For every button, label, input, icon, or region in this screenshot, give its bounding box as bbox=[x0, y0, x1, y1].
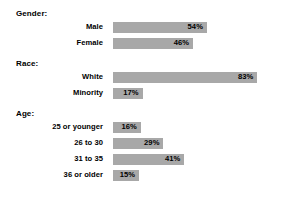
bar-row: Female46% bbox=[0, 37, 299, 49]
bar-category-label: 36 or older bbox=[0, 169, 103, 181]
bar-category-label: Minority bbox=[0, 87, 103, 99]
bar-value-label: 16% bbox=[115, 121, 137, 132]
bar-row: Male54% bbox=[0, 21, 299, 33]
bar-category-label: Male bbox=[0, 21, 103, 33]
bar-row: 31 to 3541% bbox=[0, 153, 299, 165]
bar-category-label: 31 to 35 bbox=[0, 153, 103, 165]
bar-row: White83% bbox=[0, 71, 299, 83]
bar-value-label: 41% bbox=[158, 153, 180, 164]
group-header: Gender: bbox=[16, 9, 47, 19]
bar-row: 26 to 3029% bbox=[0, 137, 299, 149]
bar-value-label: 54% bbox=[181, 21, 203, 32]
bar-row: 25 or younger16% bbox=[0, 121, 299, 133]
bar-value-label: 29% bbox=[137, 137, 159, 148]
bar-value-label: 46% bbox=[167, 37, 189, 48]
group-header: Age: bbox=[16, 109, 34, 119]
bar-category-label: 25 or younger bbox=[0, 121, 103, 133]
bar-value-label: 83% bbox=[231, 71, 253, 82]
bar-row: 36 or older15% bbox=[0, 169, 299, 181]
bar-category-label: White bbox=[0, 71, 103, 83]
bar-value-label: 17% bbox=[117, 87, 139, 98]
group-header: Race: bbox=[16, 59, 38, 69]
bar-category-label: Female bbox=[0, 37, 103, 49]
bar-value-label: 15% bbox=[113, 169, 135, 180]
bar-row: Minority17% bbox=[0, 87, 299, 99]
bar-chart: Gender:Male54%Female46%Race:White83%Mino… bbox=[0, 0, 299, 207]
bar-category-label: 26 to 30 bbox=[0, 137, 103, 149]
